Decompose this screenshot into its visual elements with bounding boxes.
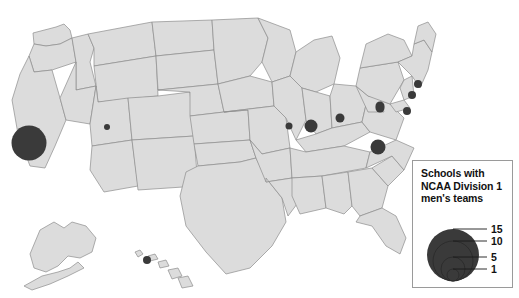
map-marker-indiana — [336, 114, 345, 123]
legend-title: Schools with NCAA Division 1 men's teams — [421, 167, 513, 205]
legend-circle-group — [427, 229, 479, 281]
map-marker-colorado — [104, 124, 110, 130]
map-marker-california — [12, 126, 47, 161]
legend-label-group: 151051 — [491, 223, 503, 275]
legend-title-line-1: Schools with — [421, 167, 513, 180]
state-alaska-inset — [30, 222, 96, 272]
map-marker-hawaii — [143, 256, 151, 264]
state-north-dakota — [152, 20, 214, 56]
map-legend: Schools with NCAA Division 1 men's teams… — [412, 160, 513, 288]
map-screenshot: Schools with NCAA Division 1 men's teams… — [0, 0, 519, 298]
legend-label-15: 15 — [491, 223, 503, 235]
legend-symbols: 151051 — [413, 205, 514, 287]
state-arizona — [90, 140, 138, 192]
state-michigan — [290, 36, 340, 92]
map-marker-illinois — [305, 120, 318, 133]
map-marker-connecticut — [408, 91, 416, 99]
legend-label-5: 5 — [491, 251, 497, 263]
legend-label-10: 10 — [491, 235, 503, 247]
state-hawaii-5 — [178, 276, 193, 288]
legend-circle-1 — [447, 269, 459, 281]
state-kansas — [190, 110, 250, 144]
legend-label-1: 1 — [491, 263, 497, 275]
map-land-layer — [12, 18, 436, 290]
state-alabama — [322, 172, 352, 214]
state-hawaii-1 — [135, 250, 143, 257]
state-colorado — [128, 92, 194, 140]
map-marker-pennsylvania — [376, 104, 385, 113]
map-marker-new-jersey — [403, 107, 411, 115]
state-south-dakota — [156, 50, 218, 90]
map-marker-missouri — [286, 123, 293, 130]
state-minnesota — [212, 18, 268, 84]
map-marker-massachusetts — [414, 80, 422, 88]
legend-title-line-2: NCAA Division 1 — [421, 180, 513, 193]
state-hawaii-3 — [158, 260, 169, 268]
map-marker-virginia — [371, 140, 386, 155]
state-mississippi — [292, 176, 326, 214]
state-florida — [356, 208, 406, 254]
legend-title-line-3: men's teams — [421, 192, 513, 205]
